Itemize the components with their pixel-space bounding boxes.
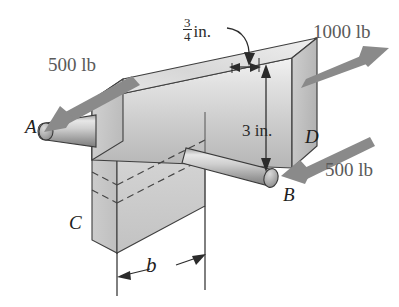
engineering-diagram <box>0 0 399 307</box>
fraction-unit: in. <box>194 22 211 41</box>
load-label-top-1000lb: 1000 lb <box>313 22 371 41</box>
dimension-label-b: b <box>146 255 157 276</box>
dimension-label-three-quarter-in: 3 4 in. <box>183 16 211 44</box>
fraction-denominator: 4 <box>183 29 192 43</box>
fraction-three-quarters: 3 4 <box>183 16 192 44</box>
point-label-A: A <box>25 117 37 136</box>
fraction-numerator: 3 <box>183 16 192 29</box>
load-label-left-500lb: 500 lb <box>48 55 96 74</box>
dimension-label-3in: 3 in. <box>242 122 272 139</box>
point-label-B: B <box>283 185 295 204</box>
figure-canvas: 500 lb 1000 lb 500 lb 3 4 in. 3 in. b A … <box>0 0 399 307</box>
point-label-D: D <box>305 127 319 146</box>
bar-right-end-face <box>292 38 317 168</box>
load-label-right-500lb: 500 lb <box>325 160 373 179</box>
point-label-C: C <box>69 213 82 232</box>
